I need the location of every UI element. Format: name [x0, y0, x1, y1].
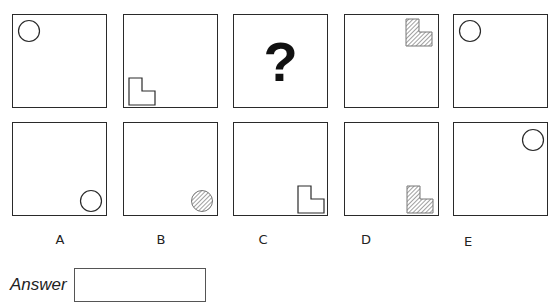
- option-label-b: B: [151, 232, 171, 247]
- circle-icon: [17, 19, 41, 43]
- option-b[interactable]: [123, 122, 218, 216]
- option-label-a: A: [50, 232, 70, 247]
- sequence-box-4: [344, 14, 439, 108]
- circle-icon: [79, 189, 103, 213]
- l-shape-icon: [297, 185, 327, 215]
- option-c[interactable]: [233, 122, 328, 216]
- option-label-e: E: [458, 234, 478, 249]
- option-d[interactable]: [344, 122, 439, 216]
- hatched-circle-icon: [190, 189, 214, 213]
- answer-label: Answer: [10, 275, 67, 295]
- hatched-l-shape-icon: [405, 18, 435, 48]
- hatched-l-shape-icon: [406, 185, 436, 215]
- answer-input[interactable]: [74, 268, 206, 302]
- l-shape-icon: [128, 77, 158, 107]
- option-label-d: D: [356, 232, 376, 247]
- question-mark: ?: [234, 29, 327, 94]
- circle-icon: [458, 19, 482, 43]
- sequence-box-5: [453, 14, 548, 108]
- sequence-box-3-unknown: ?: [233, 14, 328, 108]
- option-label-c: C: [253, 232, 273, 247]
- circle-icon: [521, 128, 545, 152]
- sequence-box-2: [123, 14, 218, 108]
- sequence-box-1: [12, 14, 107, 108]
- option-a[interactable]: [12, 122, 107, 216]
- option-e[interactable]: [453, 122, 548, 216]
